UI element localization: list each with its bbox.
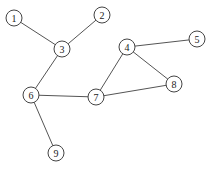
node-4: 4 — [119, 39, 135, 55]
node-3: 3 — [54, 41, 70, 57]
node-1: 1 — [6, 10, 22, 26]
node-7: 7 — [88, 89, 104, 105]
edge-4-5 — [127, 39, 197, 47]
node-9: 9 — [48, 145, 64, 161]
edge-7-4 — [96, 47, 127, 97]
node-5: 5 — [189, 31, 205, 47]
node-label: 9 — [54, 148, 59, 159]
edge-4-8 — [127, 47, 174, 84]
edge-6-7 — [31, 95, 96, 97]
node-label: 7 — [94, 92, 99, 103]
node-label: 5 — [195, 34, 200, 45]
graph-diagram: 123456789 — [0, 0, 214, 171]
node-label: 3 — [60, 44, 65, 55]
node-2: 2 — [94, 7, 110, 23]
edge-1-3 — [14, 18, 62, 49]
edge-6-9 — [31, 95, 56, 153]
edge-7-8 — [96, 84, 174, 97]
node-label: 1 — [12, 13, 17, 24]
node-6: 6 — [23, 87, 39, 103]
node-label: 6 — [29, 90, 34, 101]
node-8: 8 — [166, 76, 182, 92]
node-label: 8 — [172, 79, 177, 90]
nodes-layer: 123456789 — [6, 7, 205, 161]
node-label: 4 — [125, 42, 130, 53]
node-label: 2 — [100, 10, 105, 21]
